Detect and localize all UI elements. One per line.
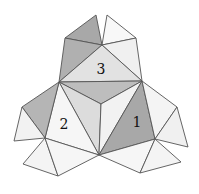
polyhedron-net-diagram: 3 2 1 — [0, 0, 199, 194]
face-label-1: 1 — [133, 114, 142, 130]
face-label-2: 2 — [60, 116, 69, 132]
face-label-3: 3 — [97, 61, 106, 77]
faces-group — [14, 15, 188, 176]
